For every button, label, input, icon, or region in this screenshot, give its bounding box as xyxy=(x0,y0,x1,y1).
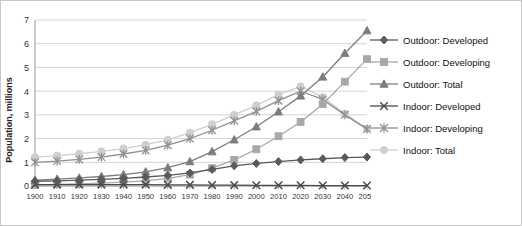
data-point-triangle xyxy=(208,147,216,154)
chart-container: Population, millions 0123456719001910192… xyxy=(0,0,522,226)
data-point-triangle xyxy=(274,108,282,115)
plot-area: Population, millions 0123456719001910192… xyxy=(1,9,371,221)
legend-key-swatch xyxy=(369,55,399,69)
y-tick-label: 6 xyxy=(24,39,29,49)
legend-label: Outdoor: Developed xyxy=(399,35,488,46)
data-point-asterisk xyxy=(275,96,283,105)
data-point-triangle xyxy=(186,157,194,164)
legend-label: Indoor: Developed xyxy=(399,101,481,112)
y-tick-label: 1 xyxy=(24,158,29,168)
legend-item-outdoor-total[interactable]: Outdoor: Total xyxy=(369,73,519,95)
chart-title-clipped xyxy=(1,1,522,9)
x-tick-label: 2000 xyxy=(248,192,265,201)
x-tick-label: 2030 xyxy=(314,192,331,201)
data-point-square xyxy=(253,146,260,153)
data-point-triangle xyxy=(230,136,238,143)
legend-label: Indoor: Developing xyxy=(399,123,483,134)
x-tick-label: 1950 xyxy=(137,192,154,201)
data-point-square xyxy=(381,59,388,66)
y-tick-label: 3 xyxy=(24,110,29,120)
series-outdoor-developing xyxy=(32,56,371,188)
legend-item-outdoor-developing[interactable]: Outdoor: Developing xyxy=(369,51,519,73)
legend-key-swatch xyxy=(369,99,399,113)
x-tick-label: 1910 xyxy=(49,192,66,201)
series-indoor-total xyxy=(31,83,370,161)
x-tick-label: 1900 xyxy=(27,192,44,201)
legend-item-indoor-total[interactable]: Indoor: Total xyxy=(369,139,519,161)
x-tick-label: 2010 xyxy=(270,192,287,201)
x-tick-label: 1970 xyxy=(181,192,198,201)
legend-item-indoor-developing[interactable]: Indoor: Developing xyxy=(369,117,519,139)
legend-marker-circle-icon xyxy=(369,143,399,157)
x-tick-label: 1930 xyxy=(93,192,110,201)
data-point-square xyxy=(341,78,348,85)
y-tick-label: 7 xyxy=(24,15,29,25)
data-point-diamond xyxy=(380,36,387,44)
data-point-asterisk xyxy=(253,107,261,116)
legend-label: Indoor: Total xyxy=(399,145,455,156)
y-tick-label: 0 xyxy=(24,181,29,191)
data-point-diamond xyxy=(253,159,260,167)
series-line xyxy=(35,59,367,185)
legend-item-outdoor-developed[interactable]: Outdoor: Developed xyxy=(369,29,519,51)
series-indoor-developed xyxy=(31,181,371,190)
data-point-circle xyxy=(380,146,387,153)
legend-label: Outdoor: Total xyxy=(399,79,463,90)
x-tick-label: 1980 xyxy=(204,192,221,201)
data-point-diamond xyxy=(319,155,326,163)
x-tick-label: 1960 xyxy=(159,192,176,201)
x-tick-label: 2050 xyxy=(359,192,371,201)
x-tick-label: 1940 xyxy=(115,192,132,201)
legend-label: Outdoor: Developing xyxy=(399,57,490,68)
chart-svg: 0123456719001910192019301940195019601970… xyxy=(1,9,371,221)
legend-marker-diamond-icon xyxy=(369,33,399,47)
data-point-asterisk xyxy=(230,116,238,125)
x-tick-label: 1990 xyxy=(226,192,243,201)
y-tick-label: 4 xyxy=(24,87,29,97)
data-point-diamond xyxy=(341,154,348,162)
x-tick-label: 1920 xyxy=(71,192,88,201)
data-point-square xyxy=(275,133,282,140)
legend-marker-x-icon xyxy=(369,99,399,113)
data-point-asterisk xyxy=(208,126,216,135)
data-point-square xyxy=(319,101,326,108)
legend-marker-square-icon xyxy=(369,55,399,69)
chart-legend: Outdoor: Developed Outdoor: Developing O… xyxy=(369,29,519,161)
series-line xyxy=(35,185,367,186)
y-axis-label: Population, millions xyxy=(2,55,16,185)
legend-key-swatch xyxy=(369,143,399,157)
series-line xyxy=(35,91,367,162)
series-line xyxy=(35,31,367,180)
data-point-triangle xyxy=(252,123,260,130)
series-outdoor-developed xyxy=(31,153,370,185)
legend-marker-asterisk-icon xyxy=(369,121,399,135)
legend-marker-triangle-icon xyxy=(369,77,399,91)
data-point-square xyxy=(297,119,304,126)
x-tick-label: 2020 xyxy=(292,192,309,201)
data-point-diamond xyxy=(275,158,282,166)
legend-key-swatch xyxy=(369,121,399,135)
legend-key-swatch xyxy=(369,33,399,47)
legend-key-swatch xyxy=(369,77,399,91)
y-tick-label: 2 xyxy=(24,134,29,144)
legend-item-indoor-developed[interactable]: Indoor: Developed xyxy=(369,95,519,117)
y-tick-label: 5 xyxy=(24,63,29,73)
x-tick-label: 2040 xyxy=(336,192,353,201)
